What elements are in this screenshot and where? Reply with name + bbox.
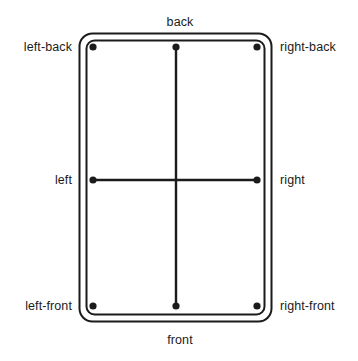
point-back (172, 43, 179, 50)
label-right-front: right-front (280, 299, 358, 314)
point-right-back (253, 43, 260, 50)
point-left-back (89, 43, 96, 50)
label-front: front (140, 333, 220, 348)
diagram-canvas: back front left right left-back right-ba… (0, 0, 358, 361)
label-left-front: left-front (0, 299, 72, 314)
point-right (253, 176, 260, 183)
label-left-back: left-back (0, 40, 72, 55)
label-right: right (280, 173, 358, 188)
label-left: left (0, 173, 72, 188)
point-left-front (89, 302, 96, 309)
label-right-back: right-back (280, 40, 358, 55)
label-back: back (140, 15, 220, 30)
point-front (172, 302, 179, 309)
point-right-front (253, 302, 260, 309)
point-left (89, 176, 96, 183)
